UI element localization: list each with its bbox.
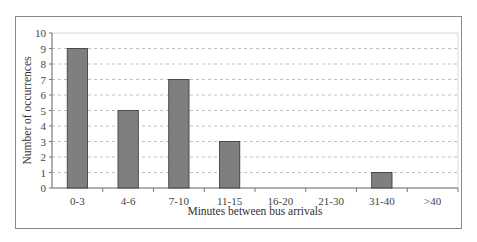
y-tick-label: 4: [41, 120, 47, 132]
x-tick-label: 0-3: [70, 195, 85, 207]
bar: [219, 142, 239, 189]
y-tick-label: 0: [41, 182, 47, 194]
x-tick-label: 4-6: [121, 195, 136, 207]
x-tick-label: 7-10: [169, 195, 190, 207]
bar: [169, 80, 189, 189]
y-tick-label: 2: [41, 151, 47, 163]
y-tick-label: 3: [41, 136, 47, 148]
y-tick-label: 7: [41, 74, 47, 86]
bar: [372, 173, 392, 189]
y-tick-label: 1: [41, 167, 47, 179]
bar: [118, 111, 138, 189]
x-tick-label: >40: [424, 195, 442, 207]
x-axis-title: Minutes between bus arrivals: [187, 205, 323, 217]
y-tick-label: 6: [41, 89, 47, 101]
y-tick-label: 8: [41, 58, 47, 70]
y-tick-label: 9: [41, 43, 47, 55]
bar-chart: 0123456789100-34-67-1011-1516-2021-3031-…: [0, 0, 477, 242]
y-tick-label: 5: [41, 105, 47, 117]
y-axis-title: Number of occurrences: [21, 56, 33, 164]
bar: [67, 49, 87, 189]
y-tick-label: 10: [35, 27, 47, 39]
x-tick-label: 31-40: [369, 195, 395, 207]
